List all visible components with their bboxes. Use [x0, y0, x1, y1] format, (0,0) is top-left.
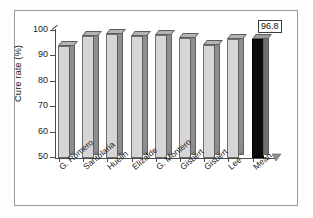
bar-side-face [142, 33, 148, 155]
y-tick-label: 100 [18, 25, 48, 34]
bar-elizalde[interactable] [131, 31, 149, 158]
y-tick-label: 50 [18, 152, 48, 161]
bar-top-face [131, 31, 151, 36]
bar-side-face [263, 36, 269, 155]
bar-g-romero[interactable] [58, 41, 76, 158]
y-tick-label: 80 [18, 76, 48, 85]
y-tick-mark [50, 81, 55, 82]
y-tick-label-text: 70 [22, 101, 48, 110]
y-tick-label: 70 [18, 101, 48, 110]
mean-value-label: 96.8 [258, 20, 282, 33]
y-tick-label-text: 50 [22, 152, 48, 161]
bar-side-face [117, 31, 123, 155]
y-tick-mark [50, 55, 55, 56]
y-tick-mark [50, 30, 55, 31]
y-tick-label: 90 [18, 50, 48, 59]
bar-side-face [166, 32, 172, 155]
y-tick-label-text: 80 [22, 76, 48, 85]
figure-canvas: Cure rate (%) 5060708090100 G. RomeroSan… [0, 0, 313, 218]
bar-side-face [190, 35, 196, 155]
bar-g-montero[interactable] [155, 30, 173, 158]
y-tick-mark [50, 132, 55, 133]
y-axis-line [55, 29, 56, 159]
y-tick-label-text: 100 [22, 25, 48, 34]
bar-mean[interactable] [252, 34, 270, 158]
y-tick-mark [50, 157, 55, 158]
bar-side-face [69, 43, 75, 155]
y-tick-label-text: 90 [22, 50, 48, 59]
bar-side-face [214, 42, 220, 155]
y-tick-label-text: 60 [22, 127, 48, 136]
plot-area: Cure rate (%) 5060708090100 G. RomeroSan… [0, 0, 313, 218]
bar-gisbert[interactable] [203, 40, 221, 158]
bar-lee[interactable] [227, 34, 245, 158]
bar-side-face [93, 33, 99, 155]
y-tick-mark [50, 106, 55, 107]
y-tick-label: 60 [18, 127, 48, 136]
bar-side-face [238, 36, 244, 155]
